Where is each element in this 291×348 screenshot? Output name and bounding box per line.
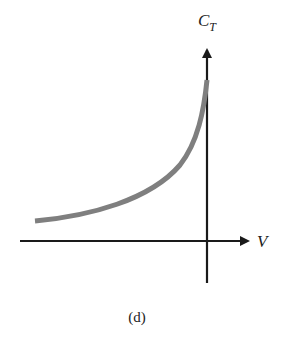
capacitance-curve [35,80,207,221]
ct-axis-label: CT [198,11,217,34]
capacitance-voltage-diagram: CT V (d) [0,0,291,348]
figure-caption: (d) [128,309,146,326]
v-axis-label: V [257,232,270,251]
